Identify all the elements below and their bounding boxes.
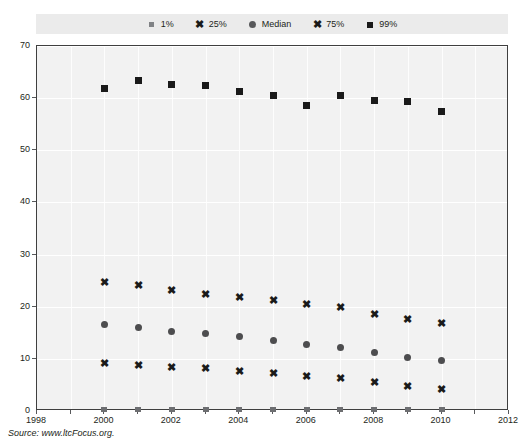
data-point	[236, 407, 242, 412]
data-point: ✖	[234, 366, 245, 377]
data-point	[101, 321, 108, 328]
data-point	[236, 333, 243, 340]
data-point: ✖	[436, 318, 447, 329]
data-point	[135, 407, 141, 412]
data-point	[371, 97, 378, 104]
data-point: ✖	[200, 363, 211, 374]
data-point: ✖	[200, 289, 211, 300]
data-point: ✖	[133, 360, 144, 371]
data-point: ✖	[301, 371, 312, 382]
x-tick-label: 2000	[83, 416, 123, 425]
gridline-vertical	[475, 46, 476, 409]
chart-figure: 1%✖25%Median✖75%99% 010203040506070 1998…	[0, 0, 525, 446]
y-tick-label: 0	[0, 406, 30, 415]
x-tick-label: 1998	[16, 416, 56, 425]
data-point	[135, 77, 142, 84]
data-point	[270, 407, 276, 412]
legend-label: 75%	[326, 19, 344, 29]
gray-circle-icon	[248, 19, 258, 29]
gridline-vertical	[71, 46, 72, 409]
legend-label: Median	[262, 19, 292, 29]
data-point: ✖	[234, 292, 245, 303]
x-tick-label: 2010	[421, 416, 461, 425]
gridline-vertical	[239, 46, 240, 409]
data-point: ✖	[99, 358, 110, 369]
data-point	[202, 330, 209, 337]
data-point	[168, 328, 175, 335]
gridline-horizontal	[37, 46, 507, 47]
y-tick-label: 30	[0, 250, 30, 259]
data-point: ✖	[369, 377, 380, 388]
legend-item[interactable]: ✖25%	[195, 19, 227, 29]
data-point: ✖	[369, 309, 380, 320]
legend-item[interactable]: Median	[248, 19, 292, 29]
y-tick-label: 60	[0, 93, 30, 102]
data-point	[304, 407, 310, 412]
x-tick-label: 2004	[218, 416, 258, 425]
data-point	[101, 85, 108, 92]
data-point: ✖	[335, 373, 346, 384]
legend-label: 25%	[209, 19, 227, 29]
data-point	[203, 407, 209, 412]
data-point: ✖	[268, 368, 279, 379]
legend-label: 1%	[161, 19, 174, 29]
gridline-horizontal	[37, 255, 507, 256]
gridline-vertical	[340, 46, 341, 409]
plot-area: ✖✖✖✖✖✖✖✖✖✖✖✖✖✖✖✖✖✖✖✖✖✖	[36, 45, 508, 410]
data-point	[168, 81, 175, 88]
data-point	[337, 407, 343, 412]
data-point	[101, 407, 107, 412]
gridline-vertical	[172, 46, 173, 409]
plot-inner: ✖✖✖✖✖✖✖✖✖✖✖✖✖✖✖✖✖✖✖✖✖✖	[37, 46, 507, 409]
data-point	[438, 357, 445, 364]
legend-item[interactable]: 99%	[365, 19, 397, 29]
data-point	[135, 324, 142, 331]
data-point	[303, 341, 310, 348]
y-tick-label: 50	[0, 145, 30, 154]
x-tick-mark	[474, 410, 475, 414]
legend-item[interactable]: ✖75%	[312, 19, 344, 29]
y-tick-label: 10	[0, 354, 30, 363]
data-point	[438, 108, 445, 115]
data-point	[404, 98, 411, 105]
data-point: ✖	[166, 362, 177, 373]
data-point: ✖	[402, 381, 413, 392]
data-point	[439, 407, 445, 412]
gridline-vertical	[206, 46, 207, 409]
data-point	[169, 407, 175, 412]
y-tick-label: 20	[0, 302, 30, 311]
chart-legend: 1%✖25%Median✖75%99%	[36, 14, 508, 34]
gridline-vertical	[307, 46, 308, 409]
data-point	[405, 407, 411, 412]
x-mark-icon: ✖	[312, 19, 322, 29]
gridline-horizontal	[37, 307, 507, 308]
gridline-vertical	[138, 46, 139, 409]
gridline-vertical	[442, 46, 443, 409]
x-tick-mark	[508, 410, 509, 414]
data-point: ✖	[335, 302, 346, 313]
y-tick-label: 40	[0, 197, 30, 206]
x-tick-label: 2006	[286, 416, 326, 425]
data-point	[337, 344, 344, 351]
y-tick-label: 70	[0, 41, 30, 50]
gridline-horizontal	[37, 150, 507, 151]
data-point: ✖	[268, 295, 279, 306]
data-point: ✖	[436, 384, 447, 395]
data-point	[270, 337, 277, 344]
gridline-vertical	[104, 46, 105, 409]
data-point	[404, 354, 411, 361]
data-point	[236, 88, 243, 95]
small-gray-square-icon	[147, 19, 157, 29]
gridline-horizontal	[37, 202, 507, 203]
data-point: ✖	[133, 280, 144, 291]
data-point	[371, 407, 377, 412]
data-point	[337, 92, 344, 99]
legend-item[interactable]: 1%	[147, 19, 174, 29]
data-point: ✖	[402, 314, 413, 325]
gridline-vertical	[273, 46, 274, 409]
data-point	[270, 92, 277, 99]
data-point	[303, 102, 310, 109]
legend-label: 99%	[379, 19, 397, 29]
data-point	[371, 349, 378, 356]
data-point: ✖	[301, 299, 312, 310]
